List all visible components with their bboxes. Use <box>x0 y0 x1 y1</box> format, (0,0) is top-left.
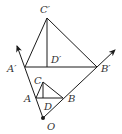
point-o-dot <box>41 116 45 120</box>
label-o: O <box>47 121 55 132</box>
label-b1: B′ <box>100 63 111 74</box>
label-a1: A′ <box>6 63 17 74</box>
label-b: B <box>67 93 75 104</box>
label-d: D <box>43 101 52 112</box>
label-a: A <box>23 93 31 104</box>
label-c: C <box>34 75 42 86</box>
label-c1: C′ <box>40 4 51 15</box>
segment-c-b <box>43 82 63 98</box>
homothety-diagram: C′ A′ D′ B′ C A D B O <box>0 0 122 134</box>
segment-a1-c1 <box>25 18 47 67</box>
label-d1: D′ <box>50 54 62 65</box>
